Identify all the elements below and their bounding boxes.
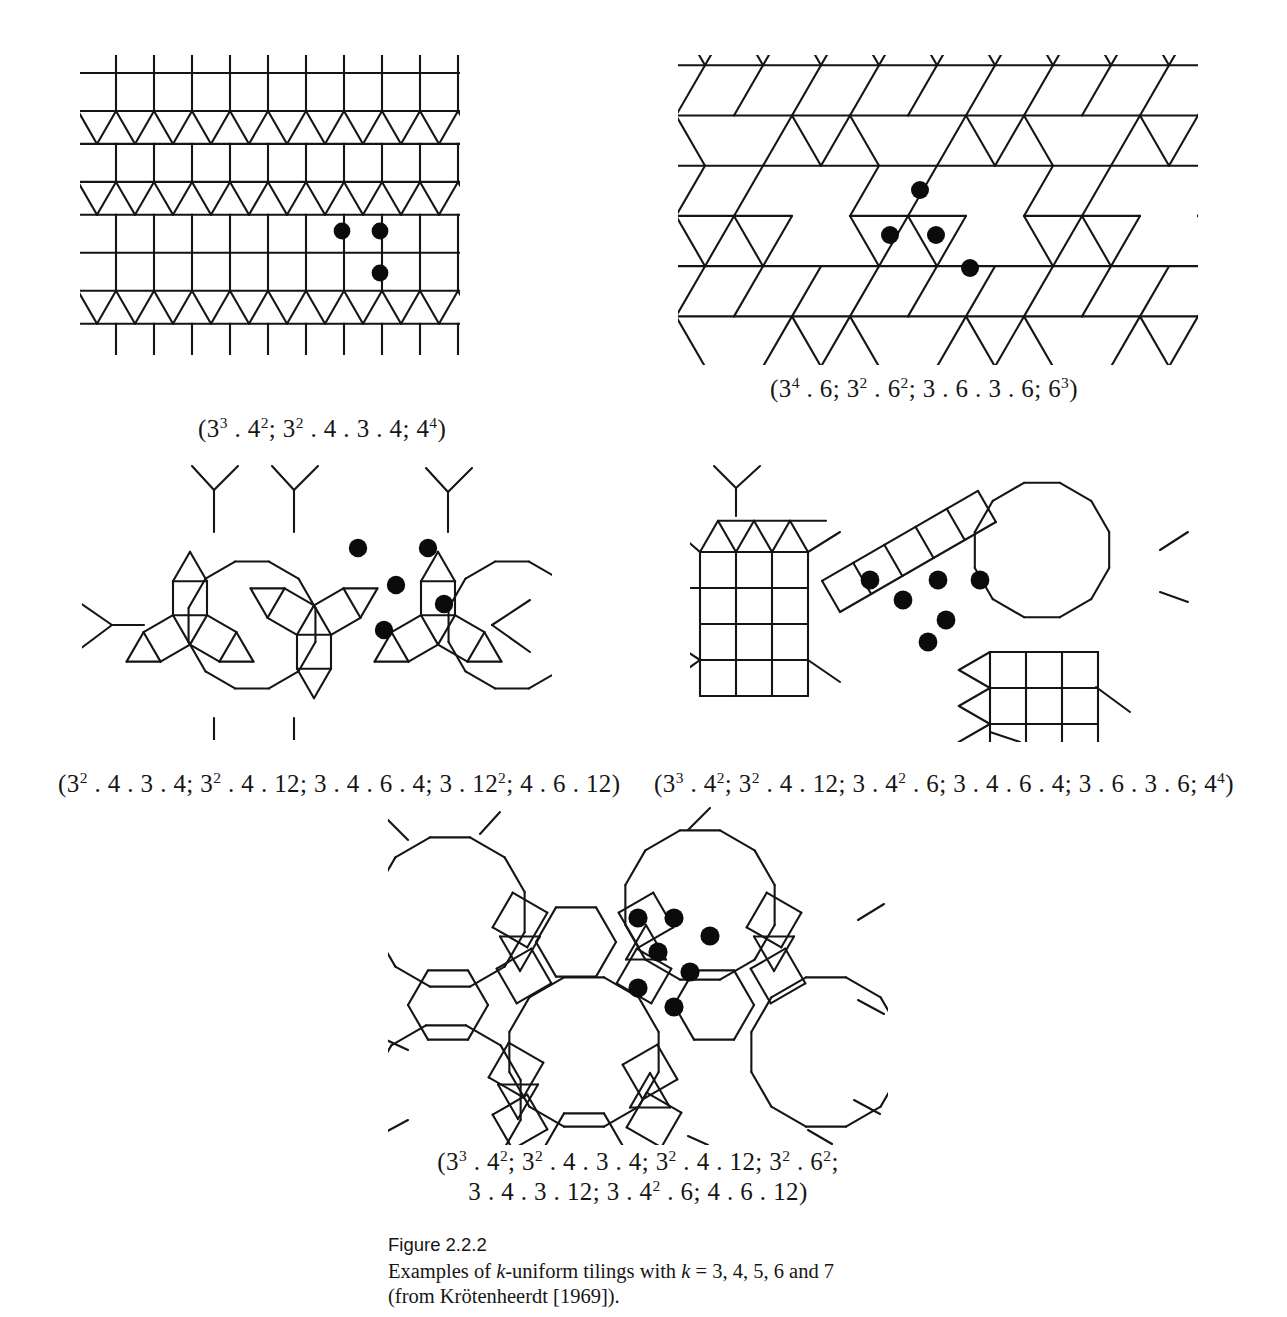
- tiling-svg-3-uniform: [80, 55, 460, 355]
- tiling-diagram-5-uniform: [82, 440, 552, 740]
- figure-caption: Figure 2.2.2 Examples of k-uniform tilin…: [388, 1232, 834, 1310]
- figcap-line2: (from Krötenheerdt [1969]).: [388, 1285, 620, 1307]
- figure-caption-text: Examples of k-uniform tilings with k = 3…: [388, 1260, 834, 1308]
- tiling-svg-5-uniform: [82, 440, 552, 740]
- figcap-post: = 3, 4, 5, 6 and 7: [690, 1260, 834, 1282]
- tiling-diagram-4-uniform: [678, 55, 1198, 365]
- caption-3-uniform: (33 . 42; 32 . 4 . 3 . 4; 44): [198, 415, 446, 443]
- tiling-diagram-6-uniform: [690, 432, 1190, 742]
- caption-7-uniform-line1: (33 . 42; 32 . 4 . 3 . 4; 32 . 4 . 12; 3…: [388, 1148, 888, 1176]
- figcap-k-italic-2: k: [681, 1260, 690, 1282]
- tiling-svg-4-uniform: [678, 55, 1198, 365]
- tiling-svg-7-uniform: [388, 800, 888, 1145]
- tiling-svg-6-uniform: [690, 432, 1190, 742]
- figcap-mid: -uniform tilings with: [505, 1260, 681, 1282]
- figure-page: (33 . 42; 32 . 4 . 3 . 4; 44) (34 . 6; 3…: [0, 0, 1287, 1317]
- tiling-diagram-7-uniform: [388, 800, 888, 1145]
- caption-6-uniform: (33 . 42; 32 . 4 . 12; 3 . 42 . 6; 3 . 4…: [654, 770, 1234, 798]
- caption-4-uniform: (34 . 6; 32 . 62; 3 . 6 . 3 . 6; 63): [770, 375, 1078, 403]
- figcap-pre: Examples of: [388, 1260, 496, 1282]
- figcap-k-italic: k: [496, 1260, 505, 1282]
- tiling-diagram-3-uniform: [80, 55, 460, 355]
- figure-number: Figure 2.2.2: [388, 1232, 834, 1258]
- caption-5-uniform: (32 . 4 . 3 . 4; 32 . 4 . 12; 3 . 4 . 6 …: [58, 770, 621, 798]
- caption-7-uniform-line2: 3 . 4 . 3 . 12; 3 . 42 . 6; 4 . 6 . 12): [388, 1178, 888, 1206]
